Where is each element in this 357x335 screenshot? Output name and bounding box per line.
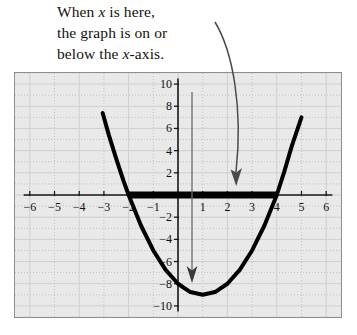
callout-line-3-pre: below the [57,45,123,62]
y-tick-label: 10 [150,77,172,92]
x-tick-label: 1 [192,200,214,215]
y-tick-label: 6 [150,121,172,136]
figure-root: When x is here, the graph is on or below… [0,0,357,335]
y-tick-label: 8 [150,99,172,114]
callout-line-3: below the x-axis. [57,43,232,64]
callout-line-3-post: -axis. [130,45,165,62]
y-tick-label: −10 [150,299,172,314]
x-tick-label: −3 [93,200,115,215]
x-tick-label: −2 [118,200,140,215]
y-tick-label: −2 [150,210,172,225]
callout-line-2: the graph is on or [57,22,232,43]
x-tick-label: 4 [266,200,288,215]
y-tick-label: 4 [150,144,172,159]
x-tick-label: −4 [68,200,90,215]
y-tick-label: −6 [150,255,172,270]
x-tick-label: 3 [241,200,263,215]
y-tick-label: −4 [150,232,172,247]
callout-line-3-variable: x [123,45,130,62]
callout-line-1-pre: When [57,3,98,20]
x-tick-label: −5 [44,200,66,215]
x-tick-label: 5 [290,200,312,215]
x-tick-label: 2 [216,200,238,215]
y-tick-label: 2 [150,166,172,181]
plot-frame [14,72,342,318]
y-tick-label: −8 [150,277,172,292]
x-tick-label: 6 [315,200,337,215]
callout-text: When x is here, the graph is on or below… [57,1,232,64]
callout-line-1-post: is here, [105,3,155,20]
callout-line-1: When x is here, [57,1,232,22]
x-tick-label: −6 [19,200,41,215]
